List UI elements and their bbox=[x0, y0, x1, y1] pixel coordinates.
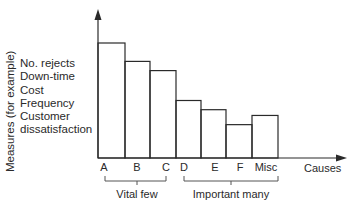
y-axis-label: Measures (for example) bbox=[4, 51, 16, 172]
bar-d bbox=[176, 101, 201, 159]
measure-item: Frequency bbox=[20, 97, 92, 110]
bar-a bbox=[98, 43, 125, 158]
bar-b bbox=[125, 61, 150, 158]
measure-item: Down-time bbox=[20, 70, 92, 83]
measure-item: Customer bbox=[20, 110, 92, 123]
measure-item: dissatisfaction bbox=[20, 123, 92, 136]
measures-list: No. rejects Down-time Cost Frequency Cus… bbox=[20, 57, 92, 137]
bar-c bbox=[150, 71, 176, 158]
bar-e bbox=[201, 110, 226, 158]
group-label-important-many: Important many bbox=[193, 188, 269, 200]
x-axis-label: Causes bbox=[304, 162, 341, 174]
category-label: C bbox=[162, 161, 170, 173]
category-label: F bbox=[237, 161, 244, 173]
bracket-important-many bbox=[184, 176, 278, 185]
bar-f bbox=[226, 125, 252, 158]
category-label: B bbox=[133, 161, 140, 173]
category-label: E bbox=[211, 161, 218, 173]
y-axis-arrow-icon bbox=[95, 9, 102, 20]
x-axis-arrow-icon bbox=[336, 155, 347, 162]
bracket-vital-few bbox=[105, 176, 166, 185]
category-label: D bbox=[180, 161, 188, 173]
measure-item: No. rejects bbox=[20, 57, 92, 70]
category-label: Misc bbox=[255, 161, 278, 173]
bars bbox=[98, 43, 278, 158]
category-label: A bbox=[100, 161, 107, 173]
group-label-vital-few: Vital few bbox=[116, 188, 157, 200]
bar-misc bbox=[252, 115, 278, 158]
measure-item: Cost bbox=[20, 84, 92, 97]
